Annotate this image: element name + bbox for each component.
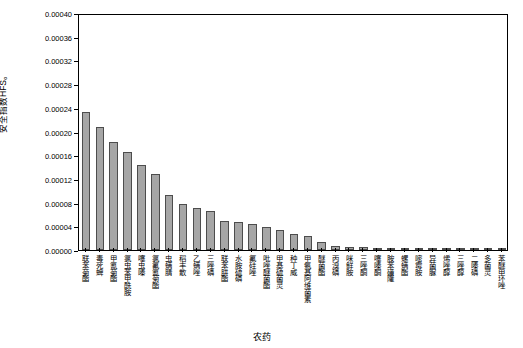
x-tick-label: 毒死蜱 (95, 254, 103, 274)
y-tick-mark (74, 133, 78, 134)
y-tick-mark (74, 204, 78, 205)
bar (248, 224, 257, 250)
x-axis-title: 农药 (0, 330, 523, 343)
x-tick-mark (348, 248, 349, 252)
y-tick-mark (74, 251, 78, 252)
x-tick-mark (376, 248, 377, 252)
y-tick-label: 0.00036 (45, 33, 72, 42)
x-tick-label: 咪鲜胺 (345, 254, 353, 274)
x-tick-mark (446, 248, 447, 252)
bar (276, 230, 285, 250)
x-tick-label: 氟硅唑 (248, 254, 256, 274)
x-tick-label: 噻嗪酮 (372, 254, 380, 274)
x-tick-label: 稻丰散 (178, 254, 186, 274)
x-tick-label: 甲氨基阿维菌素 (303, 254, 311, 302)
x-tick-mark (362, 248, 363, 252)
bar (179, 204, 188, 250)
bar (484, 248, 493, 250)
bar (109, 142, 118, 250)
x-tick-label: 三唑酮 (359, 254, 367, 274)
bar (82, 112, 91, 250)
x-tick-label: 烯唑醇 (442, 254, 450, 274)
x-tick-mark (154, 248, 155, 252)
x-tick-mark (99, 248, 100, 252)
bars-layer (79, 15, 507, 250)
y-tick-label: 0.00012 (45, 175, 72, 184)
x-tick-label: 氯氟氰菊酯 (150, 254, 158, 288)
x-tick-mark (335, 248, 336, 252)
x-tick-label: 多菌灵 (483, 254, 491, 274)
bar (345, 247, 354, 250)
y-tick-label: 0.00040 (45, 10, 72, 19)
y-axis-title: 安全指数HFS。 (0, 71, 8, 133)
bar (96, 127, 105, 250)
x-tick-label: 嘧霉胺 (414, 254, 422, 274)
x-tick-mark (168, 248, 169, 252)
y-axis-tick-labels: 0.000000.000040.000080.000120.000160.000… (20, 0, 76, 348)
y-tick-mark (74, 38, 78, 39)
y-tick-label: 0.00032 (45, 57, 72, 66)
x-tick-mark (432, 248, 433, 252)
bar (304, 236, 313, 250)
x-tick-label: 醚菌酯 (317, 254, 325, 274)
x-tick-label: 苯醚甲环唑 (497, 254, 505, 288)
x-tick-mark (140, 248, 141, 252)
x-tick-mark (265, 248, 266, 252)
y-tick-mark (74, 61, 78, 62)
bar (220, 221, 229, 251)
y-tick-mark (74, 156, 78, 157)
x-tick-label: 三唑醇 (456, 254, 464, 274)
x-tick-mark (404, 248, 405, 252)
x-tick-mark (113, 248, 114, 252)
x-tick-label: 二嗪磷 (470, 254, 478, 274)
x-tick-label: 甲基硫菌灵 (275, 254, 283, 288)
x-axis-tick-labels: 联苯菊酯毒死蜱甲氰菊酯氯虫苯甲酰胺噻虫嗪氯氟氰菊酯虫螨腈稻丰散乙螨唑三唑磷联苯肼… (78, 252, 508, 328)
x-tick-label: 水胺硫磷 (234, 254, 242, 281)
x-tick-mark (85, 248, 86, 252)
x-tick-mark (210, 248, 211, 252)
y-tick-label: 0.00000 (45, 247, 72, 256)
plot-area (78, 14, 508, 251)
bar (331, 246, 340, 250)
y-tick-mark (74, 85, 78, 86)
bar (359, 247, 368, 250)
bar (317, 242, 326, 250)
x-tick-mark (307, 248, 308, 252)
x-tick-label: 乙螨唑 (192, 254, 200, 274)
bar (137, 165, 146, 250)
bar (123, 152, 132, 250)
y-tick-mark (74, 227, 78, 228)
bar (373, 248, 382, 250)
x-tick-mark (224, 248, 225, 252)
y-tick-mark (74, 14, 78, 15)
x-tick-mark (293, 248, 294, 252)
x-tick-label: 甲氰菊酯 (109, 254, 117, 281)
x-tick-label: 虫螨腈 (164, 254, 172, 274)
bar (193, 208, 202, 250)
bar (206, 211, 215, 250)
bar (428, 248, 437, 250)
y-tick-label: 0.00028 (45, 81, 72, 90)
x-tick-label: 螺螨酯 (400, 254, 408, 274)
y-tick-mark (74, 109, 78, 110)
x-tick-mark (501, 248, 502, 252)
y-tick-label: 0.00020 (45, 128, 72, 137)
y-tick-label: 0.00016 (45, 152, 72, 161)
y-tick-label: 0.00008 (45, 199, 72, 208)
x-tick-label: 种丁威 (289, 254, 297, 274)
x-tick-label: 氯虫苯甲酰胺 (123, 254, 131, 295)
x-tick-mark (279, 248, 280, 252)
bar (165, 195, 174, 250)
x-tick-mark (127, 248, 128, 252)
x-tick-mark (473, 248, 474, 252)
x-tick-label: 三唑磷 (206, 254, 214, 274)
x-tick-label: 吡唑醚菌酯 (261, 254, 269, 288)
bar (262, 227, 271, 250)
x-tick-label: 异菌脲 (428, 254, 436, 274)
x-tick-mark (196, 248, 197, 252)
x-tick-mark (182, 248, 183, 252)
x-tick-label: 丙溴磷 (331, 254, 339, 274)
x-tick-mark (487, 248, 488, 252)
x-tick-mark (390, 248, 391, 252)
bar (151, 174, 160, 250)
